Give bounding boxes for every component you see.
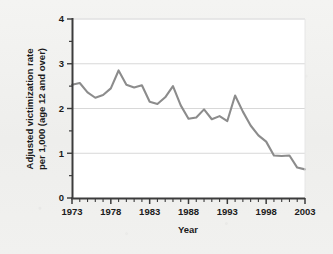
- x-tick-label-2003: 2003: [294, 206, 315, 217]
- y-axis-ticks: 01234: [59, 13, 72, 203]
- y-tick-label-4: 4: [59, 13, 65, 24]
- y-tick-label-2: 2: [59, 103, 64, 114]
- y-tick-label-3: 3: [59, 58, 64, 69]
- x-axis-title: Year: [178, 224, 198, 235]
- chart-figure: 01234 1973197819831988199319982003 Adjus…: [0, 0, 333, 254]
- x-tick-label-1998: 1998: [256, 206, 277, 217]
- x-tick-label-1993: 1993: [217, 206, 238, 217]
- y-axis-title-line1: Adjusted victimization rate: [24, 49, 35, 170]
- x-tick-label-1983: 1983: [139, 206, 160, 217]
- y-axis-title: Adjusted victimization rate per 1,000 (a…: [24, 48, 47, 170]
- y-axis-title-line2: per 1,000 (age 12 and over): [36, 48, 47, 170]
- x-tick-label-1978: 1978: [100, 206, 121, 217]
- line-chart: 01234 1973197819831988199319982003 Adjus…: [0, 0, 333, 254]
- y-tick-label-0: 0: [59, 192, 64, 203]
- x-tick-label-1988: 1988: [178, 206, 199, 217]
- x-tick-label-1973: 1973: [61, 206, 82, 217]
- x-axis-ticks: 1973197819831988199319982003: [61, 198, 315, 217]
- y-tick-label-1: 1: [59, 148, 65, 159]
